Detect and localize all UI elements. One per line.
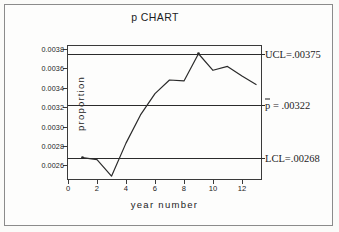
control-limit-line-ucl bbox=[68, 54, 265, 55]
x-tick-label: 12 bbox=[238, 184, 246, 193]
control-limit-line-lcl bbox=[68, 158, 265, 159]
chart-figure: p CHART proportion 0.00260.00280.00300.0… bbox=[0, 0, 339, 232]
x-tick-label: 2 bbox=[95, 184, 99, 193]
control-limit-line-pbar bbox=[68, 105, 265, 106]
control-limit-label-pbar: p = .00322 bbox=[265, 100, 310, 111]
x-tick-label: 6 bbox=[153, 184, 157, 193]
plot-area: proportion 0.00260.00280.00300.00320.003… bbox=[67, 45, 262, 180]
y-tick-label: 0.0032 bbox=[41, 103, 64, 112]
control-limit-label-lcl: LCL=.00268 bbox=[265, 152, 320, 163]
x-axis-label: year number bbox=[67, 199, 262, 210]
chart-title: p CHART bbox=[0, 11, 310, 23]
x-tick-label: 4 bbox=[124, 184, 128, 193]
x-tick-label: 0 bbox=[66, 184, 70, 193]
x-tick-label: 8 bbox=[182, 184, 186, 193]
control-limit-label-ucl: UCL=.00375 bbox=[265, 48, 321, 59]
p-bar-symbol: p bbox=[265, 100, 270, 111]
y-tick-label: 0.0028 bbox=[41, 142, 64, 151]
y-tick-label: 0.0030 bbox=[41, 122, 64, 131]
y-tick-label: 0.0026 bbox=[41, 161, 64, 170]
y-tick-label: 0.0034 bbox=[41, 83, 64, 92]
x-tick-label: 10 bbox=[209, 184, 217, 193]
y-tick-label: 0.0036 bbox=[41, 64, 64, 73]
y-tick-label: 0.0038 bbox=[41, 44, 64, 53]
data-series-line bbox=[68, 46, 263, 181]
